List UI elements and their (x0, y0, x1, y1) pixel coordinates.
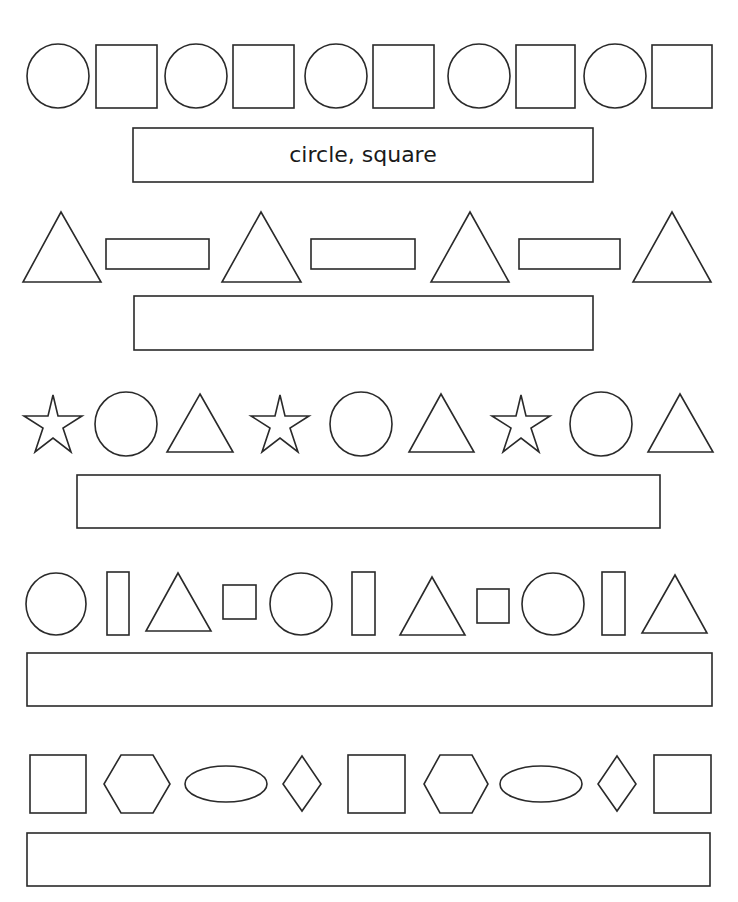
oval-shape (185, 766, 267, 802)
square-shape (652, 45, 712, 108)
pattern-row-2 (23, 212, 711, 282)
triangle-shape (648, 394, 713, 452)
diamond-shape (598, 756, 636, 811)
triangle-shape (642, 575, 707, 633)
hexagon-shape (104, 755, 170, 813)
small-square-shape (477, 589, 509, 623)
circle-shape (95, 392, 157, 456)
circle-shape (165, 44, 227, 108)
triangle-shape (167, 394, 233, 452)
answer-box-4[interactable] (27, 653, 712, 706)
tall-rectangle-shape (602, 572, 625, 635)
pattern-row-5 (30, 755, 711, 813)
hexagon-shape (424, 755, 488, 813)
answer-text-1: circle, square (289, 142, 436, 167)
circle-shape (27, 44, 89, 108)
circle-shape (305, 44, 367, 108)
triangle-shape (431, 212, 509, 282)
triangle-shape (222, 212, 301, 282)
rectangle-shape (654, 755, 711, 813)
triangle-shape (409, 394, 474, 452)
square-shape (373, 45, 434, 108)
circle-shape (570, 392, 632, 456)
star-shape (251, 395, 309, 452)
tall-rectangle-shape (352, 572, 375, 635)
star-shape (24, 395, 82, 452)
answer-box-2[interactable] (134, 296, 593, 350)
pattern-row-1 (27, 44, 712, 108)
triangle-shape (633, 212, 711, 282)
answer-box-5[interactable] (27, 833, 710, 886)
small-square-shape (223, 585, 256, 619)
diamond-shape (283, 756, 321, 811)
pattern-row-3 (24, 392, 713, 456)
rectangle-shape (348, 755, 405, 813)
rectangle-shape (519, 239, 620, 269)
rectangle-shape (30, 755, 86, 813)
square-shape (96, 45, 157, 108)
circle-shape (448, 44, 510, 108)
pattern-row-4 (26, 572, 707, 635)
square-shape (516, 45, 575, 108)
square-shape (233, 45, 294, 108)
rectangle-shape (311, 239, 415, 269)
triangle-shape (146, 573, 211, 631)
star-shape (492, 395, 550, 452)
oval-shape (500, 766, 582, 802)
triangle-shape (23, 212, 101, 282)
circle-shape (522, 573, 584, 635)
circle-shape (330, 392, 392, 456)
worksheet: circle, square (0, 0, 738, 902)
circle-shape (270, 573, 332, 635)
circle-shape (26, 573, 86, 635)
triangle-shape (400, 577, 465, 635)
answer-box-3[interactable] (77, 475, 660, 528)
tall-rectangle-shape (107, 572, 129, 635)
rectangle-shape (106, 239, 209, 269)
circle-shape (584, 44, 646, 108)
